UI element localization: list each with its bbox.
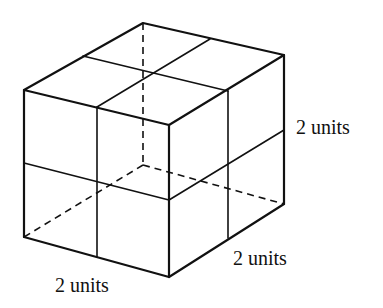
unit-grid-lines <box>24 39 284 257</box>
height-label: 2 units <box>296 117 350 137</box>
cube-drawing <box>0 0 383 308</box>
right-face-horizontal-divider <box>169 130 284 200</box>
outer-edges <box>24 23 284 277</box>
cube-diagram: 2 units 2 units 2 units <box>0 0 383 308</box>
top-face-divider-b <box>97 39 210 107</box>
top-face-outline <box>24 23 284 125</box>
hidden-left-edge <box>24 165 143 237</box>
depth-label: 2 units <box>233 248 287 268</box>
top-face-divider-a <box>83 56 228 91</box>
hidden-edges <box>24 23 284 237</box>
width-label: 2 units <box>55 275 109 295</box>
